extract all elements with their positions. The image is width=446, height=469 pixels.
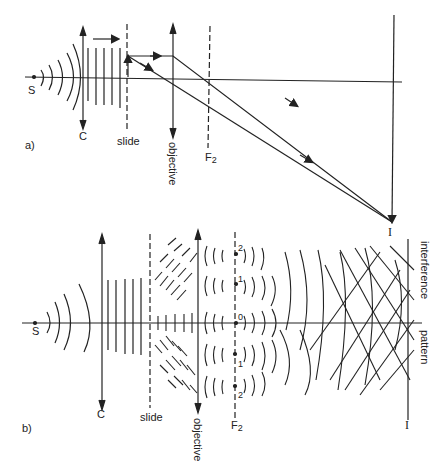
image-label-a: I <box>388 225 392 239</box>
microscope-diffraction-diagram: S C slide objective F2 I a) <box>0 0 446 469</box>
optical-axis-a <box>25 77 402 82</box>
panel-label-a: a) <box>25 139 35 151</box>
diagram-a <box>25 15 402 222</box>
objective-label-b: objective <box>192 418 204 461</box>
order-label: 1 <box>238 359 243 369</box>
focal-label-a: F2 <box>205 151 217 165</box>
source-label-a: S <box>28 84 35 96</box>
diagram-b <box>22 230 422 420</box>
focal-label-b: F2 <box>231 419 243 433</box>
order-label: 2 <box>238 390 243 400</box>
slide-label-b: slide <box>140 411 163 423</box>
panel-label-b: b) <box>22 422 32 434</box>
source-label-b: S <box>32 325 39 337</box>
order-label: 0 <box>238 312 243 322</box>
slide-label-a: slide <box>117 135 140 147</box>
interference-label: interference <box>419 241 431 299</box>
pattern-label: pattern <box>419 330 431 364</box>
condenser-label-a: C <box>79 130 87 142</box>
focal-plane-a <box>208 26 210 148</box>
image-arrow-a <box>392 15 394 222</box>
order-label: 1 <box>238 274 243 284</box>
objective-label-a: objective <box>167 142 179 185</box>
image-label-b: I <box>405 418 409 432</box>
condenser-label-b: C <box>97 408 105 420</box>
order-label: 2 <box>238 243 243 253</box>
